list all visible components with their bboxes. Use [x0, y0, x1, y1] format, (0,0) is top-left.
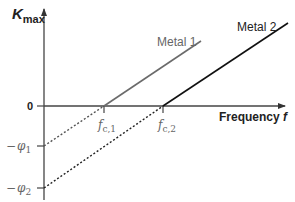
metal-1-dashed-extrapolation: [44, 106, 104, 146]
metal-1-line: [104, 41, 201, 106]
x-axis-label: Frequency f: [219, 110, 288, 124]
metal-1-label: Metal 1: [157, 35, 197, 49]
fc1-label: fc,1: [97, 118, 116, 134]
kmax-vs-frequency-diagram: Kmax Frequency f 0 Metal 1 Metal 2 fc,1 …: [0, 0, 295, 202]
phi2-label: −φ2: [6, 181, 31, 197]
origin-label: 0: [27, 100, 33, 112]
metal-2-dashed-extrapolation: [44, 106, 163, 188]
phi1-label: −φ1: [6, 139, 31, 155]
metal-2-label: Metal 2: [237, 20, 277, 34]
fc2-label: fc,2: [157, 118, 176, 134]
y-axis-label: Kmax: [12, 5, 46, 25]
